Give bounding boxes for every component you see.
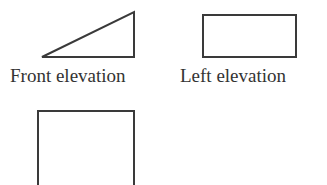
top-view-rectangle — [38, 111, 134, 185]
left-elevation-rectangle — [203, 15, 296, 57]
diagram-drawing — [0, 0, 327, 185]
front-elevation-triangle — [42, 12, 134, 57]
orthographic-views-diagram: Front elevation Left elevation — [0, 0, 327, 185]
front-elevation-label: Front elevation — [10, 66, 126, 85]
left-elevation-label: Left elevation — [180, 66, 286, 85]
